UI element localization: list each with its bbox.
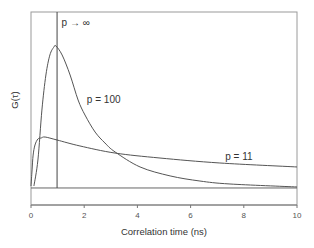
x-tick-label: 4 (135, 211, 140, 220)
x-tick-label: 10 (293, 211, 302, 220)
x-tick-label: 0 (29, 211, 34, 220)
series-layer (31, 12, 297, 188)
x-tick-label: 8 (242, 211, 247, 220)
plot-frame (31, 12, 297, 205)
x-tick-label: 6 (188, 211, 193, 220)
chart: 0246810 p → ∞p = 100p = 11 Correlation t… (0, 0, 314, 248)
annotation-label: p = 11 (225, 151, 253, 162)
series-line-p-11 (31, 137, 297, 186)
y-axis-title: G(τ) (9, 91, 20, 108)
x-tick-label: 2 (82, 211, 87, 220)
series-line-p-100 (34, 45, 297, 187)
annotations: p → ∞p = 100p = 11 (62, 17, 253, 161)
x-ticks: 0246810 (29, 205, 302, 220)
annotation-label: p = 100 (87, 94, 121, 105)
x-axis-title: Correlation time (ns) (121, 226, 207, 237)
annotation-label: p → ∞ (62, 17, 90, 28)
